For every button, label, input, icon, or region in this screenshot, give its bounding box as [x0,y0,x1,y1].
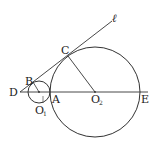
label-B: B [25,75,33,88]
label-l: ℓ [112,12,117,25]
geometry-diagram: ℓ C B D A O 2 E O 1 [0,0,162,159]
radius-O2C [68,56,95,92]
label-C: C [61,44,69,57]
label-O2-sub: 2 [99,99,103,106]
label-O1-sub: 1 [43,110,47,117]
label-E: E [141,93,149,106]
center-dot-O1 [38,91,40,93]
label-A: A [51,93,61,106]
label-D: D [9,86,18,99]
radius-O1B [33,82,39,92]
